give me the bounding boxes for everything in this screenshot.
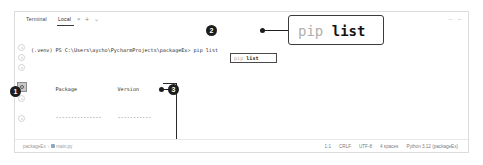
callout-command-suffix: list: [323, 23, 365, 39]
gutter-marker-icon[interactable]: [18, 44, 25, 51]
interpreter-selector[interactable]: Python 3.12 (packageEx): [402, 140, 462, 154]
column-header-version: Version: [118, 86, 139, 92]
gutter-marker-icon[interactable]: [18, 115, 25, 122]
window-controls-icon[interactable]: – –: [449, 12, 463, 27]
close-icon[interactable]: ×: [77, 12, 81, 27]
caret-position[interactable]: 1:1: [321, 140, 335, 154]
status-bar: packageEx›main.py 1:1CRLFUTF-84 spacesPy…: [15, 139, 468, 153]
callout-badge-2: 2: [206, 25, 217, 36]
console-table-separator: --------------------------: [31, 104, 461, 114]
tab-local-active-indicator: [57, 25, 74, 26]
column-header-package: Package: [56, 85, 118, 95]
callout-command-text: pip list: [298, 22, 365, 40]
callout-leader-line-2: [262, 30, 288, 31]
terminal-output-area[interactable]: (.venv) PS C:\Users\aycho\PycharmProject…: [15, 27, 468, 139]
separator-package: ---------------: [56, 113, 118, 123]
callout-badge-3: 3: [168, 84, 179, 95]
python-file-icon: [51, 144, 56, 149]
chevron-down-icon[interactable]: ⌄: [94, 12, 99, 27]
line-ending[interactable]: CRLF: [335, 140, 355, 154]
command-prefix: pip: [234, 55, 243, 61]
command-suffix: list: [243, 55, 258, 61]
callout-command-prefix: pip: [298, 23, 323, 39]
highlighted-command-text: pip list: [234, 55, 259, 62]
breadcrumb[interactable]: packageEx›main.py: [23, 140, 72, 154]
tab-terminal[interactable]: Terminal: [26, 12, 47, 27]
gutter-marker-icon[interactable]: [18, 54, 25, 61]
breadcrumb-project[interactable]: packageEx: [23, 144, 46, 149]
callout-badge-1: 1: [10, 86, 21, 97]
gutter-marker-icon[interactable]: [18, 64, 25, 71]
terminal-window: Terminal Local × + ⌄ – – (.venv) PS C:\U…: [14, 11, 469, 153]
indent-setting[interactable]: 4 spaces: [376, 140, 402, 154]
console-text: (.venv) PS C:\Users\aycho\PycharmProject…: [31, 27, 461, 139]
gutter-marker-icon[interactable]: [18, 95, 25, 102]
highlighted-command-box: pip list: [230, 53, 277, 63]
terminal-tab-strip: Terminal Local × + ⌄ – –: [15, 12, 468, 27]
callout-zoom-box: pip list: [288, 15, 384, 45]
status-bar-right: 1:1CRLFUTF-84 spacesPython 3.12 (package…: [321, 140, 462, 154]
add-terminal-icon[interactable]: +: [85, 12, 89, 27]
terminal-gutter: [15, 27, 29, 139]
separator-version: -----------: [118, 114, 152, 120]
breadcrumb-file[interactable]: main.py: [56, 144, 72, 149]
console-table-header: PackageVersion: [31, 75, 461, 85]
encoding[interactable]: UTF-8: [355, 140, 376, 154]
callout-leader-dot-2: [260, 28, 265, 33]
